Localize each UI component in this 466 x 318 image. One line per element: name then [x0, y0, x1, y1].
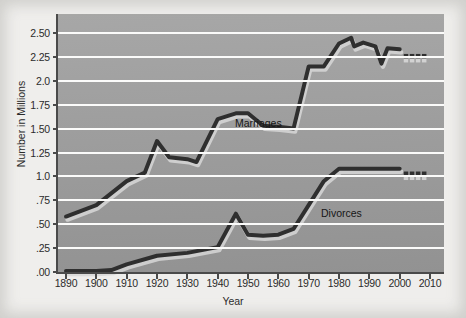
y-axis-line — [56, 14, 58, 274]
y-tick-label: .75 — [36, 194, 50, 206]
y-tick-mark — [53, 56, 58, 58]
y-tick-mark — [53, 199, 58, 201]
x-tick-mark — [368, 274, 370, 279]
gridline — [58, 104, 444, 106]
gridline — [58, 32, 444, 34]
projection-marker-shadow — [410, 58, 415, 63]
y-tick-mark — [53, 128, 58, 130]
series-label-divorces: Divorces — [321, 207, 362, 219]
y-tick-mark — [53, 247, 58, 249]
plot-area: Marriages Divorces — [58, 14, 444, 273]
y-tick-label: 2.0 — [36, 75, 50, 87]
x-tick-mark — [399, 274, 401, 279]
x-tick-mark — [338, 274, 340, 279]
x-tick-mark — [308, 274, 310, 279]
x-tick-mark — [156, 274, 158, 279]
y-tick-mark — [53, 175, 58, 177]
series-line-divorces — [66, 169, 400, 271]
gridline — [58, 80, 444, 82]
y-tick-mark — [53, 32, 58, 34]
x-tick-mark — [277, 274, 279, 279]
x-tick-mark — [247, 274, 249, 279]
y-tick-label: .25 — [36, 242, 50, 254]
y-tick-label: .50 — [36, 218, 50, 230]
projection-marker-shadow — [416, 58, 421, 63]
x-axis-title: Year — [0, 295, 466, 307]
x-tick-mark — [429, 274, 431, 279]
marriages-divorces-line-chart: Marriages Divorces .00.25.50.751.01.251.… — [0, 0, 466, 318]
gridline — [58, 56, 444, 58]
x-tick-mark — [95, 274, 97, 279]
x-tick-mark — [65, 274, 67, 279]
y-tick-label: 1.25 — [30, 147, 50, 159]
gridline — [58, 128, 444, 130]
y-axis-title: Number in Millions — [15, 39, 27, 209]
x-tick-mark — [186, 274, 188, 279]
y-tick-label: 2.25 — [30, 51, 50, 63]
y-tick-mark — [53, 80, 58, 82]
y-tick-mark — [53, 271, 58, 273]
y-tick-label: 1.50 — [30, 123, 50, 135]
y-tick-label: 2.50 — [30, 27, 50, 39]
x-tick-mark — [217, 274, 219, 279]
x-tick-mark — [126, 274, 128, 279]
y-tick-label: 1.0 — [36, 170, 50, 182]
y-tick-mark — [53, 152, 58, 154]
projection-marker-shadow — [422, 58, 427, 63]
x-axis-line — [58, 272, 444, 274]
y-tick-mark — [53, 104, 58, 106]
series-shadow-marriages — [68, 41, 402, 220]
projection-marker-shadow — [404, 58, 409, 63]
gridline — [58, 199, 444, 201]
gridline — [58, 223, 444, 225]
gridline — [58, 175, 444, 177]
series-group — [66, 38, 426, 274]
y-tick-mark — [53, 223, 58, 225]
y-tick-label: 1.75 — [30, 99, 50, 111]
gridline — [58, 152, 444, 154]
series-lines — [58, 14, 444, 273]
y-tick-label: .00 — [36, 266, 50, 278]
gridline — [58, 247, 444, 249]
